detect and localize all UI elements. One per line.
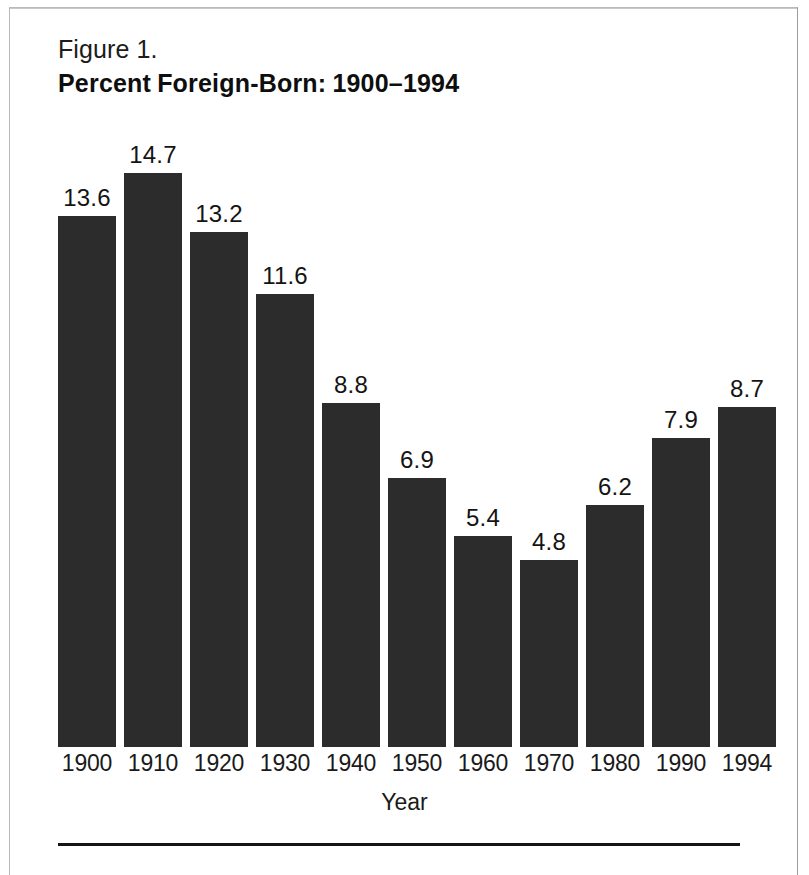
bar xyxy=(190,232,248,747)
bar xyxy=(454,536,512,747)
bar-chart: 13.614.713.211.68.86.95.44.86.27.98.7 19… xyxy=(0,0,809,875)
bar xyxy=(124,173,182,747)
bar xyxy=(388,478,446,747)
bar-value-label: 13.6 xyxy=(44,184,130,212)
bar xyxy=(652,438,710,747)
x-axis-tick-labels: 1900191019201930194019501960197019801990… xyxy=(58,750,784,784)
x-axis-title: Year xyxy=(0,789,809,816)
bar-value-label: 13.2 xyxy=(176,200,262,228)
bar xyxy=(256,294,314,747)
x-axis-tick-label: 1960 xyxy=(450,750,512,777)
bar-value-label: 6.9 xyxy=(374,446,460,474)
bar-value-label: 8.7 xyxy=(704,375,790,403)
x-axis-tick-label: 1920 xyxy=(186,750,248,777)
x-axis-tick-label: 1900 xyxy=(54,750,116,777)
bar-value-label: 14.7 xyxy=(110,141,196,169)
x-axis-tick-label: 1940 xyxy=(318,750,380,777)
bar-value-label: 8.8 xyxy=(308,371,394,399)
x-axis-tick-label: 1980 xyxy=(582,750,644,777)
figure-page: Figure 1. PercentForeign-Born:1900–1994 … xyxy=(0,0,809,875)
x-axis-tick-label: 1990 xyxy=(648,750,710,777)
x-axis-tick-label: 1950 xyxy=(384,750,446,777)
footer-divider xyxy=(58,843,740,846)
x-axis-tick-label: 1930 xyxy=(252,750,314,777)
x-axis-tick-label: 1994 xyxy=(714,750,776,777)
x-axis-tick-label: 1910 xyxy=(120,750,182,777)
plot-area: 13.614.713.211.68.86.95.44.86.27.98.7 xyxy=(58,130,784,747)
x-axis-tick-label: 1970 xyxy=(516,750,578,777)
bar xyxy=(58,216,116,747)
bar xyxy=(322,403,380,747)
bar-value-label: 6.2 xyxy=(572,473,658,501)
bar-value-label: 4.8 xyxy=(506,528,592,556)
bar xyxy=(718,407,776,747)
bar xyxy=(520,560,578,747)
bar xyxy=(586,505,644,747)
bar-value-label: 7.9 xyxy=(638,406,724,434)
bar-value-label: 11.6 xyxy=(242,262,328,290)
